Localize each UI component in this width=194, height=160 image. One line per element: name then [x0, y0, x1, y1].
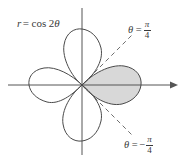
theta-equals: =: [132, 140, 138, 151]
fraction-denominator: 4: [146, 146, 153, 156]
theta-symbol: θ: [128, 25, 133, 36]
equation-function: cos: [32, 17, 47, 29]
ray-label-theta-positive: θ = π 4: [128, 20, 151, 40]
fraction-pi-over-four: π 4: [146, 135, 153, 155]
equation-label: r=cos2θ: [17, 18, 60, 29]
fraction-pi-over-four: π 4: [144, 20, 151, 40]
ray-label-theta-negative: θ = − π 4: [124, 135, 153, 155]
fraction-numerator: π: [144, 20, 151, 30]
fraction-numerator: π: [146, 135, 153, 145]
polar-rose-figure: r=cos2θ θ = π 4 θ = − π 4: [0, 0, 194, 160]
negative-sign: −: [140, 140, 146, 151]
theta-symbol: θ: [124, 140, 129, 151]
equation-angle-symbol: θ: [54, 17, 59, 29]
equation-equals: =: [23, 17, 29, 29]
equation-variable: r: [17, 17, 21, 29]
fraction-denominator: 4: [144, 31, 151, 41]
x-axis-arrowhead: [170, 82, 178, 89]
theta-equals: =: [136, 25, 142, 36]
